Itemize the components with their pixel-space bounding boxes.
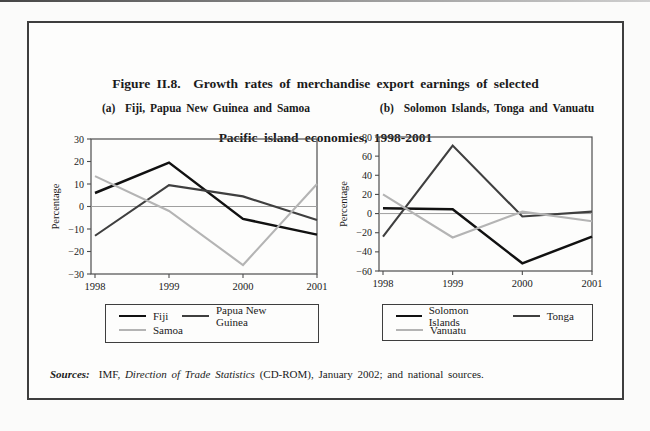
panel-b-legend: Solomon IslandsTongaVanuatu bbox=[382, 304, 593, 341]
legend-swatch-papua-new-guinea bbox=[182, 315, 209, 318]
y-tick-label: 0 bbox=[367, 208, 372, 219]
legend-item-papua-new-guinea: Papua New Guinea bbox=[182, 304, 300, 328]
y-tick-label: 20 bbox=[362, 189, 372, 200]
x-tick-label: 1999 bbox=[159, 281, 180, 292]
x-tick-label: 2000 bbox=[512, 278, 533, 289]
legend-label-tonga: Tonga bbox=[547, 310, 574, 322]
y-axis-title: Percentage bbox=[338, 181, 349, 227]
plot-border bbox=[379, 137, 592, 271]
sources-label: Sources: bbox=[50, 368, 90, 380]
sources-text-italic: Direction of Trade Statistics bbox=[125, 368, 255, 380]
y-tick-label: 80 bbox=[362, 132, 372, 143]
y-tick-label: −40 bbox=[356, 246, 372, 257]
y-tick-label: 30 bbox=[74, 134, 84, 145]
panel-a-title: (a) Fiji, Papua New Guinea and Samoa bbox=[47, 102, 337, 116]
legend-item-tonga: Tonga bbox=[513, 310, 574, 322]
x-tick-label: 2000 bbox=[233, 281, 254, 292]
panel-b-chart: 806040200−20−40−601998199920002001Percen… bbox=[334, 127, 624, 299]
scanned-figure-page: Figure II.8. Growth rates of merchandise… bbox=[0, 0, 650, 431]
panel-a-legend: FijiPapua New GuineaSamoa bbox=[105, 304, 319, 343]
x-tick-label: 1998 bbox=[373, 278, 394, 289]
scan-edge-artifact bbox=[0, 0, 650, 2]
y-tick-label: −60 bbox=[356, 266, 372, 277]
sources-note: Sources:IMF, Direction of Trade Statisti… bbox=[50, 368, 484, 380]
legend-item-samoa: Samoa bbox=[119, 324, 183, 336]
y-tick-label: −10 bbox=[68, 224, 84, 235]
y-tick-label: 60 bbox=[362, 151, 372, 162]
panel-b: (b) Solomon Islands, Tonga and Vanuatu 8… bbox=[334, 102, 624, 299]
series-line-vanuatu bbox=[383, 194, 592, 237]
y-axis-title: Percentage bbox=[50, 183, 61, 229]
legend-label-samoa: Samoa bbox=[153, 324, 183, 336]
panel-b-title: (b) Solomon Islands, Tonga and Vanuatu bbox=[334, 102, 624, 116]
panel-a-chart: 3020100−10−20−301998199920002001Percenta… bbox=[47, 127, 337, 299]
y-tick-label: 40 bbox=[362, 170, 372, 181]
x-tick-label: 2001 bbox=[582, 278, 603, 289]
legend-swatch-tonga bbox=[513, 315, 540, 318]
figure-title-line1: Figure II.8. Growth rates of merchandise… bbox=[29, 75, 622, 93]
y-tick-label: 20 bbox=[74, 156, 84, 167]
x-tick-label: 2001 bbox=[307, 281, 328, 292]
legend-swatch-solomon-islands bbox=[396, 315, 422, 318]
legend-swatch-vanuatu bbox=[396, 329, 423, 332]
legend-label-papua-new-guinea: Papua New Guinea bbox=[216, 304, 300, 328]
legend-row: Solomon IslandsTonga bbox=[396, 309, 588, 323]
series-line-tonga bbox=[383, 146, 592, 237]
legend-row: FijiPapua New Guinea bbox=[119, 309, 314, 323]
figure-frame: Figure II.8. Growth rates of merchandise… bbox=[27, 21, 624, 400]
y-tick-label: −20 bbox=[356, 227, 372, 238]
y-tick-label: −30 bbox=[68, 269, 84, 280]
legend-item-vanuatu: Vanuatu bbox=[396, 324, 466, 336]
legend-label-fiji: Fiji bbox=[153, 310, 168, 322]
legend-label-vanuatu: Vanuatu bbox=[430, 324, 466, 336]
legend-swatch-samoa bbox=[119, 329, 146, 332]
sources-text-pre: IMF, bbox=[99, 368, 125, 380]
x-tick-label: 1998 bbox=[85, 281, 106, 292]
series-line-fiji bbox=[95, 163, 317, 235]
legend-item-fiji: Fiji bbox=[119, 310, 168, 322]
panel-a: (a) Fiji, Papua New Guinea and Samoa 302… bbox=[47, 102, 337, 299]
y-tick-label: 0 bbox=[79, 201, 84, 212]
y-tick-label: −20 bbox=[68, 246, 84, 257]
sources-text-post: (CD-ROM), January 2002; and national sou… bbox=[255, 368, 484, 380]
y-tick-label: 10 bbox=[74, 179, 84, 190]
legend-swatch-fiji bbox=[119, 315, 146, 318]
x-tick-label: 1999 bbox=[442, 278, 463, 289]
